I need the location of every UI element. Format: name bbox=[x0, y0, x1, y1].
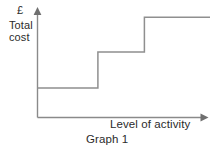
x-axis-label: Level of activity bbox=[110, 118, 190, 130]
x-axis-arrow-icon bbox=[201, 114, 209, 122]
y-axis-label-line-2: cost bbox=[9, 32, 33, 44]
step-cost-figure: £ Total cost Level of activity Graph 1 bbox=[0, 0, 214, 163]
y-axis-label: Total cost bbox=[9, 20, 33, 43]
y-axis-currency-symbol: £ bbox=[17, 5, 23, 17]
step-cost-series-line bbox=[38, 17, 211, 88]
figure-caption: Graph 1 bbox=[86, 133, 128, 145]
y-axis-label-line-1: Total bbox=[9, 20, 33, 32]
y-axis-arrow-icon bbox=[34, 7, 42, 15]
